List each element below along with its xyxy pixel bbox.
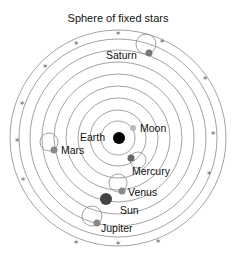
star-icon: ✶ — [159, 37, 166, 46]
diagram-title: Sphere of fixed stars — [68, 12, 169, 24]
star-icon: ✶ — [210, 129, 217, 138]
body-saturn: Saturn — [106, 34, 156, 61]
saturn-dot — [146, 50, 153, 57]
venus-label: Venus — [128, 186, 157, 198]
saturn-label: Saturn — [106, 49, 137, 61]
jupiter-label: Jupiter — [101, 222, 133, 234]
star-icon: ✶ — [115, 239, 122, 248]
star-icon: ✶ — [14, 136, 21, 145]
earth-label: Earth — [80, 131, 105, 143]
body-mercury: Mercury — [128, 152, 171, 177]
sun-dot — [100, 193, 112, 205]
earth-dot — [113, 132, 125, 144]
epicycle — [136, 34, 156, 54]
mercury-label: Mercury — [132, 165, 171, 177]
star-icon: ✶ — [73, 238, 80, 247]
star-icon: ✶ — [20, 175, 27, 184]
geocentric-diagram: Sphere of fixed stars ✶✶✶✶✶✶✶✶✶✶✶✶✶ Eart… — [0, 0, 235, 257]
jupiter-dot — [94, 220, 101, 227]
body-earth: Earth — [80, 131, 125, 144]
moon-dot — [130, 125, 136, 131]
star-icon: ✶ — [42, 62, 49, 71]
star-icon: ✶ — [73, 39, 80, 48]
sun-label: Sun — [120, 204, 139, 216]
star-icon: ✶ — [202, 74, 209, 83]
mercury-dot — [128, 155, 135, 162]
star-icon: ✶ — [19, 99, 26, 108]
venus-dot — [119, 188, 126, 195]
star-icon: ✶ — [115, 29, 122, 38]
moon-label: Moon — [140, 122, 166, 134]
mars-dot — [51, 147, 58, 154]
star-icon: ✶ — [155, 237, 162, 246]
mars-label: Mars — [61, 144, 84, 156]
star-icon: ✶ — [206, 169, 213, 178]
body-moon: Moon — [130, 122, 166, 134]
